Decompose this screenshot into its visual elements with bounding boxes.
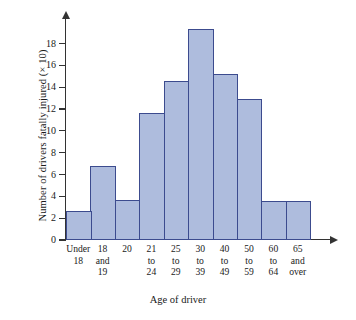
histogram-bar bbox=[66, 211, 92, 240]
y-axis-tick bbox=[59, 218, 66, 219]
histogram-bar bbox=[286, 201, 312, 240]
y-axis-tick-label: 2 bbox=[38, 213, 56, 223]
y-axis-tick bbox=[59, 43, 66, 44]
y-axis-tick-label: 4 bbox=[38, 191, 56, 201]
histogram-bar bbox=[261, 201, 287, 240]
y-axis-tick bbox=[59, 174, 66, 175]
x-axis-category-line: 19 bbox=[83, 266, 121, 278]
histogram-bar bbox=[90, 166, 116, 240]
x-axis-category-line: and bbox=[83, 255, 121, 267]
y-axis-tick-label: 10 bbox=[38, 126, 56, 136]
y-axis-tick bbox=[59, 130, 66, 131]
x-axis-category-line: over bbox=[279, 266, 317, 278]
bars-group bbox=[66, 24, 310, 240]
y-axis-tick bbox=[59, 108, 66, 109]
y-axis-tick bbox=[59, 239, 66, 240]
y-axis-tick-label: 8 bbox=[38, 148, 56, 158]
y-axis-tick-label: 14 bbox=[38, 82, 56, 92]
y-axis-tick-label: 6 bbox=[38, 170, 56, 180]
y-axis-arrowhead bbox=[62, 11, 70, 19]
histogram-bar bbox=[237, 99, 263, 240]
y-axis-tick-label: 18 bbox=[38, 39, 56, 49]
x-axis-arrowhead bbox=[330, 236, 338, 244]
y-axis-tick bbox=[59, 87, 66, 88]
histogram-bar bbox=[164, 81, 190, 240]
histogram-figure: Number of drivers fatally injured (× 10)… bbox=[0, 0, 356, 320]
x-axis-title: Age of driver bbox=[0, 294, 356, 305]
histogram-bar bbox=[188, 29, 214, 240]
y-axis-tick-label: 0 bbox=[38, 235, 56, 245]
histogram-bar bbox=[212, 74, 238, 240]
histogram-bar bbox=[139, 113, 165, 240]
histogram-bar bbox=[115, 200, 141, 240]
x-axis-category-labels: Under1818and192021to2425to2930to3940to49… bbox=[66, 243, 310, 289]
x-axis-category-line: 65 bbox=[279, 243, 317, 255]
y-axis-tick bbox=[59, 65, 66, 66]
y-axis-tick-label: 12 bbox=[38, 104, 56, 114]
x-axis-category-line: and bbox=[279, 255, 317, 267]
y-axis-tick bbox=[59, 196, 66, 197]
x-axis-category-label: 65andover bbox=[279, 243, 317, 278]
y-axis-tick bbox=[59, 152, 66, 153]
y-axis-tick-label: 16 bbox=[38, 60, 56, 70]
